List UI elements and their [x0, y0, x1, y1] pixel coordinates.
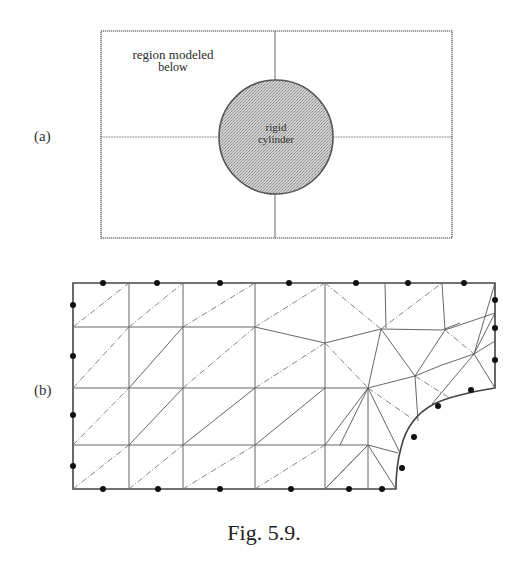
panel-b-mesh [73, 283, 495, 489]
mesh-diagonal [183, 283, 255, 327]
region-modeled-label: region modeled below [118, 48, 228, 74]
mesh-diagonal [129, 283, 183, 327]
mesh-diagonal [255, 388, 325, 445]
mesh-diagonal [325, 283, 381, 329]
node [346, 486, 352, 492]
mesh-diagonal [73, 388, 129, 445]
mesh-diagonal [415, 376, 418, 421]
mesh-diagonal [415, 330, 445, 376]
rigid-cylinder-label: rigid cylinder [246, 121, 306, 145]
mesh-diagonal [183, 388, 255, 445]
cylinder-text-line1: rigid [246, 121, 306, 133]
node [492, 357, 498, 363]
mesh-diagonal [73, 445, 129, 489]
mesh-diagonal [129, 445, 183, 489]
mesh-diagonal [325, 388, 368, 445]
node [492, 297, 498, 303]
mesh-diagonal [129, 388, 183, 445]
node [468, 387, 474, 393]
mesh-boundary [73, 283, 495, 489]
mesh-diagonal [255, 445, 325, 489]
mesh-diagonal [368, 388, 414, 420]
node [399, 465, 405, 471]
mesh-diagonal [368, 329, 381, 388]
mesh-line [73, 445, 398, 453]
node [70, 302, 76, 308]
node [70, 353, 76, 359]
cylinder-text-line2: cylinder [246, 133, 306, 145]
node [100, 280, 106, 286]
mesh-line [442, 283, 445, 330]
node [100, 486, 106, 492]
node [70, 412, 76, 418]
mesh-diagonal [183, 327, 255, 388]
mesh-line [73, 341, 495, 388]
mesh-diagonal [325, 445, 368, 489]
node [461, 280, 467, 286]
mesh-diagonal [73, 283, 129, 327]
mesh-line [385, 283, 386, 328]
mesh-diagonal [255, 343, 325, 388]
mesh-diagonal [445, 330, 474, 354]
mesh-diagonal [381, 283, 442, 329]
node [492, 325, 498, 331]
figure-caption: Fig. 5.9. [0, 520, 528, 546]
region-text-line2: below [118, 61, 228, 74]
figure-graphics [0, 0, 528, 566]
mesh-diagonal [474, 354, 495, 388]
mesh-diagonal [183, 445, 255, 489]
node [217, 486, 223, 492]
node [405, 280, 411, 286]
mesh-diagonal [381, 329, 415, 376]
mesh-diagonal [73, 327, 129, 388]
node [217, 280, 223, 286]
boundary-nodes [70, 280, 498, 492]
mesh-diagonal [340, 388, 368, 445]
mesh-diagonal [368, 388, 400, 453]
node [411, 434, 417, 440]
mesh-diagonal [325, 343, 368, 388]
node [155, 486, 161, 492]
node [353, 280, 359, 286]
mesh-diagonal [415, 376, 448, 397]
mesh-diagonal [129, 327, 183, 388]
node [379, 486, 385, 492]
node [435, 403, 441, 409]
node [70, 463, 76, 469]
node [288, 486, 294, 492]
node [286, 280, 292, 286]
mesh-line [73, 323, 460, 343]
node [154, 280, 160, 286]
mesh-diagonal [255, 283, 325, 327]
